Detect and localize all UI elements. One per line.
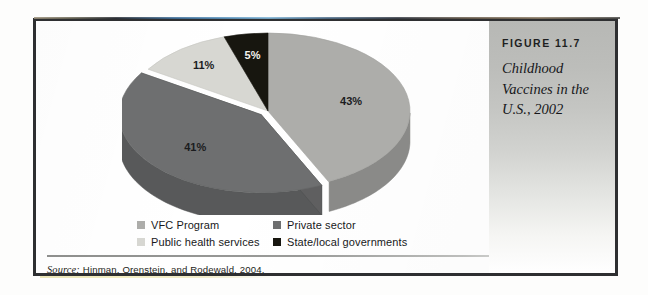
source-divider — [47, 255, 520, 257]
legend-item-label: State/local governments — [287, 236, 407, 248]
legend-swatch-icon — [273, 221, 281, 229]
pie-chart-svg: 43%41%11%5% — [122, 25, 432, 215]
scan-edge-artifact-top — [34, 17, 620, 19]
source-note: Source: Hinman, Orenstein, and Rodewald,… — [47, 264, 265, 275]
legend-item-label: Public health services — [151, 236, 260, 248]
figure-frame: 43%41%11%5% VFC Program Private sector P… — [33, 18, 618, 276]
legend-item-state-local-governments[interactable]: State/local governments — [273, 234, 437, 250]
legend-item-label: VFC Program — [151, 219, 219, 231]
figure-title: Childhood Vaccines in the U.S., 2002 — [502, 58, 602, 120]
pie-slice-value-label: 43% — [340, 95, 362, 107]
pie-slice-value-label: 41% — [184, 141, 206, 153]
legend-item-private-sector[interactable]: Private sector — [273, 217, 437, 233]
pie-slice-value-label: 11% — [193, 59, 215, 71]
legend-item-public-health-services[interactable]: Public health services — [137, 234, 267, 250]
legend-item-label: Private sector — [287, 219, 356, 231]
source-text: Hinman, Orenstein, and Rodewald, 2004. — [83, 264, 265, 275]
legend-item-vfc-program[interactable]: VFC Program — [137, 217, 267, 233]
scanned-page: 43%41%11%5% VFC Program Private sector P… — [0, 0, 648, 295]
legend: VFC Program Private sector Public health… — [137, 217, 437, 250]
legend-swatch-icon — [137, 238, 145, 246]
legend-swatch-icon — [137, 221, 145, 229]
chart-area: 43%41%11%5% VFC Program Private sector P… — [36, 21, 495, 273]
legend-swatch-icon — [273, 238, 281, 246]
pie-slice-value-label: 5% — [245, 49, 261, 61]
figure-caption-panel: FIGURE 11.7 Childhood Vaccines in the U.… — [489, 21, 615, 273]
figure-number: FIGURE 11.7 — [502, 37, 603, 49]
source-label: Source: — [47, 264, 80, 275]
pie-chart: 43%41%11%5% — [122, 25, 432, 215]
scan-edge-artifact-bottom — [40, 276, 270, 278]
